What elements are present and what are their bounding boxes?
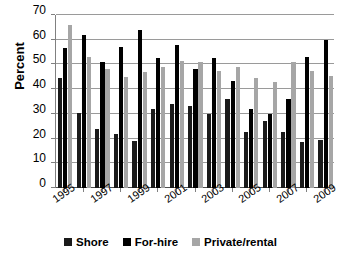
year-group [316,15,335,188]
y-tick-label: 0 [6,178,46,188]
year-group [223,15,242,188]
legend-label: Private/rental [204,236,277,248]
y-tick-label: 20 [6,129,46,139]
bar-private [329,76,333,188]
bar-private [310,71,314,188]
bar-private [180,61,184,188]
bar-private [254,78,258,188]
bar-shore [300,142,304,188]
bar-forhire [249,109,253,188]
year-group [261,15,280,188]
bar-forhire [100,62,104,188]
bar-private [143,72,147,188]
bar-forhire [212,58,216,188]
chart-legend: ShoreFor-hirePrivate/rental [0,236,341,248]
plot-area [55,15,334,188]
year-group [93,15,112,188]
bar-forhire [82,35,86,188]
x-tick-mark [269,188,270,192]
bar-chart: Percent 010203040506070 1995199719992001… [0,0,341,265]
bar-forhire [286,99,290,188]
legend-item-private[interactable]: Private/rental [192,236,277,248]
year-group [205,15,224,188]
legend-label: For-hire [135,236,178,248]
legend-swatch-icon [64,238,72,246]
bar-forhire [63,48,67,188]
year-group [149,15,168,188]
year-group [56,15,75,188]
bars-layer [56,15,334,188]
bar-shore [207,114,211,188]
bar-forhire [119,47,123,188]
bar-forhire [231,81,235,189]
legend-item-shore[interactable]: Shore [64,236,109,248]
bar-shore [170,104,174,188]
x-tick-mark [306,188,307,192]
x-tick-mark [120,188,121,192]
year-group [168,15,187,188]
y-tick-label: 50 [6,54,46,64]
bar-private [236,67,240,188]
bar-private [291,62,295,188]
y-tick-label: 60 [6,30,46,40]
bar-shore [244,132,248,188]
bar-shore [132,141,136,188]
bar-forhire [156,58,160,188]
year-group [75,15,94,188]
bar-forhire [138,30,142,188]
bar-forhire [324,40,328,188]
y-tick-label: 40 [6,79,46,89]
y-tick-label: 10 [6,153,46,163]
year-group [186,15,205,188]
x-tick-mark [195,188,196,192]
legend-label: Shore [76,236,109,248]
y-tick-label: 30 [6,104,46,114]
bar-private [217,71,221,188]
bar-shore [318,140,322,188]
year-group [112,15,131,188]
year-group [298,15,317,188]
bar-forhire [175,45,179,188]
legend-swatch-icon [123,238,131,246]
bar-private [161,67,165,188]
bar-shore [263,121,267,188]
bar-shore [281,132,285,188]
bar-shore [188,106,192,188]
bar-shore [151,109,155,188]
bar-private [198,62,202,188]
year-group [279,15,298,188]
x-tick-mark [232,188,233,192]
bar-private [87,57,91,188]
bar-forhire [193,69,197,188]
legend-swatch-icon [192,238,200,246]
year-group [242,15,261,188]
bar-private [124,77,128,188]
year-group [130,15,149,188]
legend-item-forhire[interactable]: For-hire [123,236,178,248]
bar-shore [95,129,99,188]
bar-forhire [268,114,272,188]
bar-private [105,69,109,188]
bar-shore [58,78,62,188]
x-tick-mark [157,188,158,192]
x-axis-ticks: 19951997199920012003200520072009 [55,188,334,228]
x-tick-mark [83,188,84,192]
bar-shore [77,113,81,188]
y-tick-label: 70 [6,5,46,15]
bar-private [273,82,277,188]
bar-shore [225,99,229,188]
bar-forhire [305,57,309,188]
bar-private [68,25,72,188]
bar-shore [114,134,118,188]
